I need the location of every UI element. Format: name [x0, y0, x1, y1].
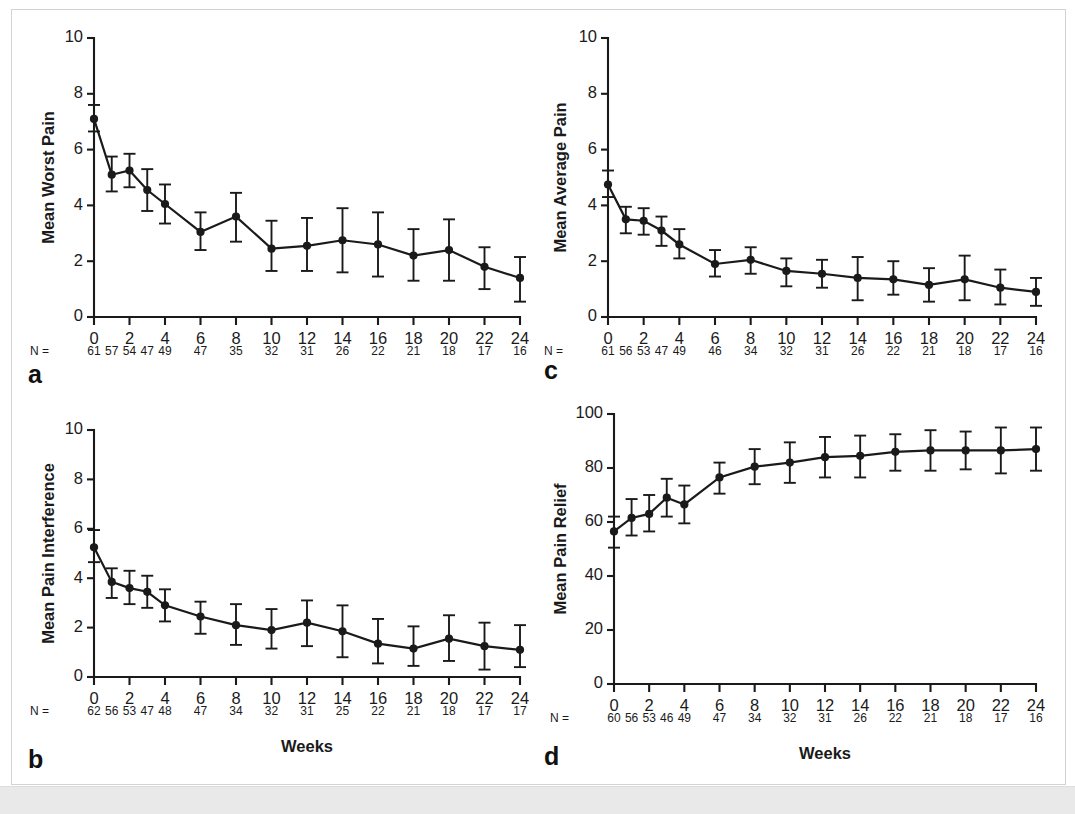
y-tick-label: 0 — [74, 306, 83, 324]
y-tick-label: 2 — [74, 617, 83, 635]
n-value: 56 — [619, 344, 633, 358]
n-value: 53 — [637, 344, 651, 358]
data-point-marker — [854, 274, 862, 282]
data-point-marker — [657, 226, 665, 234]
y-tick-label: 0 — [74, 666, 83, 684]
data-point-marker — [715, 473, 723, 481]
y-tick-label: 10 — [65, 27, 83, 45]
data-point-marker — [891, 448, 899, 456]
y-tick-label: 8 — [74, 83, 83, 101]
n-value: 56 — [625, 711, 639, 725]
n-value: 34 — [744, 344, 758, 358]
data-point-marker — [818, 270, 826, 278]
figure-page: 0246810024681012141618202224Mean Worst P… — [0, 0, 1075, 814]
n-value: 22 — [371, 704, 385, 718]
n-value: 53 — [123, 704, 137, 718]
y-tick-label: 20 — [585, 619, 603, 637]
data-point-marker — [1032, 445, 1040, 453]
n-value: 26 — [336, 344, 350, 358]
n-row-prefix: N = — [30, 344, 49, 358]
n-value: 34 — [229, 704, 243, 718]
n-value: 16 — [513, 344, 527, 358]
y-tick-label: 2 — [74, 251, 83, 269]
data-point-marker — [675, 240, 683, 248]
data-point-marker — [680, 500, 688, 508]
y-tick-label: 8 — [588, 83, 597, 101]
n-value: 18 — [958, 344, 972, 358]
n-value: 22 — [889, 711, 903, 725]
x-axis-title: Weeks — [799, 744, 851, 762]
data-point-marker — [747, 256, 755, 264]
n-value: 31 — [300, 344, 314, 358]
data-point-marker — [610, 527, 618, 535]
n-value: 49 — [158, 344, 172, 358]
n-value: 17 — [478, 344, 492, 358]
n-value: 17 — [513, 704, 527, 718]
data-point-marker — [786, 459, 794, 467]
n-value: 47 — [655, 344, 669, 358]
data-point-marker — [232, 212, 240, 220]
n-value: 31 — [815, 344, 829, 358]
n-value: 25 — [336, 704, 350, 718]
y-tick-label: 4 — [74, 195, 83, 213]
n-value: 61 — [87, 344, 101, 358]
y-axis-title: Mean Average Pain — [551, 102, 569, 252]
data-point-marker — [604, 180, 612, 188]
n-value: 17 — [994, 344, 1008, 358]
data-point-marker — [925, 281, 933, 289]
data-point-marker — [926, 446, 934, 454]
n-value: 17 — [994, 711, 1008, 725]
n-value: 62 — [87, 704, 101, 718]
data-point-marker — [374, 240, 382, 248]
data-point-marker — [962, 446, 970, 454]
data-point-marker — [125, 166, 133, 174]
n-value: 18 — [442, 704, 456, 718]
n-value: 46 — [708, 344, 722, 358]
data-point-marker — [1032, 288, 1040, 296]
data-point-marker — [480, 642, 488, 650]
data-point-marker — [409, 644, 417, 652]
data-point-marker — [751, 463, 759, 471]
n-value: 47 — [141, 344, 155, 358]
n-row-prefix: N = — [30, 704, 49, 718]
y-tick-label: 80 — [585, 457, 603, 475]
n-row-prefix: N = — [550, 711, 569, 725]
n-value: 56 — [105, 704, 119, 718]
y-axis-title: Mean Pain Relief — [551, 483, 569, 615]
chart-a: 0246810024681012141618202224Mean Worst P… — [12, 10, 532, 390]
chart-b: 0246810024681012141618202224Mean Pain In… — [12, 392, 532, 784]
n-value: 49 — [673, 344, 687, 358]
n-value: 17 — [478, 704, 492, 718]
n-value: 26 — [853, 711, 867, 725]
panel-letter-a: a — [28, 362, 42, 387]
data-point-marker — [267, 245, 275, 253]
data-point-marker — [303, 619, 311, 627]
y-axis-title: Mean Pain Interference — [39, 463, 57, 644]
x-axis-title: Weeks — [281, 737, 333, 755]
panel-a: 0246810024681012141618202224Mean Worst P… — [12, 10, 532, 390]
data-point-marker — [409, 252, 417, 260]
n-value: 32 — [780, 344, 794, 358]
panel-letter-c: c — [544, 358, 558, 383]
n-value: 22 — [371, 344, 385, 358]
data-point-marker — [143, 186, 151, 194]
n-value: 32 — [783, 711, 797, 725]
data-point-marker — [516, 274, 524, 282]
data-point-marker — [338, 236, 346, 244]
panel-letter-b: b — [28, 747, 43, 772]
data-point-marker — [108, 171, 116, 179]
n-value: 32 — [265, 704, 279, 718]
n-value: 60 — [607, 711, 621, 725]
data-point-marker — [90, 115, 98, 123]
data-point-marker — [663, 494, 671, 502]
n-value: 57 — [105, 344, 119, 358]
y-axis-title: Mean Worst Pain — [39, 111, 57, 244]
data-point-marker — [196, 228, 204, 236]
y-tick-label: 60 — [585, 511, 603, 529]
data-point-marker — [90, 543, 98, 551]
data-point-marker — [232, 621, 240, 629]
panel-letter-d: d — [544, 744, 559, 769]
chart-d: 020406080100024681012141618202224Mean Pa… — [530, 392, 1058, 784]
data-point-marker — [143, 588, 151, 596]
n-value: 35 — [229, 344, 243, 358]
